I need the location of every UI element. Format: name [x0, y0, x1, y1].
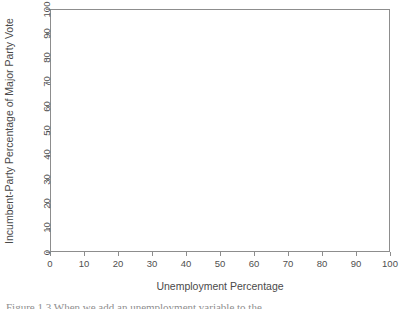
x-tick-mark	[288, 252, 289, 256]
x-tick-mark	[220, 252, 221, 256]
x-axis-title: Unemployment Percentage	[50, 280, 390, 292]
x-tick-label: 50	[205, 258, 235, 269]
x-tick-label: 90	[341, 258, 371, 269]
x-tick-mark	[118, 252, 119, 256]
y-axis-title: Incumbent-Party Percentage of Major Part…	[3, 18, 15, 244]
plot-data-area	[51, 10, 389, 251]
x-tick-mark	[356, 252, 357, 256]
x-tick-label: 100	[375, 258, 405, 269]
x-tick-label: 10	[69, 258, 99, 269]
x-tick-mark	[322, 252, 323, 256]
x-tick-label: 80	[307, 258, 337, 269]
x-tick-mark	[84, 252, 85, 256]
figure-panel: 0102030405060708090100 01020304050607080…	[0, 0, 409, 309]
x-tick-label: 40	[171, 258, 201, 269]
x-tick-label: 20	[103, 258, 133, 269]
plot-frame	[50, 9, 390, 252]
x-tick-mark	[152, 252, 153, 256]
x-tick-label: 70	[273, 258, 303, 269]
figure-caption: Figure 1.3 When we add an unemployment v…	[6, 301, 404, 309]
y-axis-title-wrapper: Incumbent-Party Percentage of Major Part…	[0, 9, 18, 252]
x-tick-mark	[390, 252, 391, 256]
x-tick-mark	[254, 252, 255, 256]
y-tick-label: 100	[41, 0, 52, 24]
x-tick-label: 30	[137, 258, 167, 269]
x-tick-label: 60	[239, 258, 269, 269]
x-tick-mark	[186, 252, 187, 256]
